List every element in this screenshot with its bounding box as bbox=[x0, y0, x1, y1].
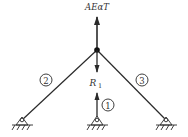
truss-diagram: AEαT R 1 1 bbox=[0, 0, 188, 137]
left-pin-support-icon bbox=[12, 117, 33, 130]
top-force-arrow bbox=[94, 16, 100, 50]
right-pin-support-icon bbox=[156, 117, 177, 130]
member-3-badge: 3 bbox=[136, 74, 148, 86]
reaction-arrow-up bbox=[95, 92, 100, 118]
member-1-badge: 1 bbox=[102, 99, 114, 111]
top-force-label: AEαT bbox=[84, 2, 110, 12]
reaction-label-main: R bbox=[89, 78, 97, 88]
member-2-badge: 2 bbox=[40, 74, 52, 86]
center-pin-support-icon bbox=[87, 116, 108, 130]
member-2-line bbox=[22, 50, 97, 120]
reaction-arrow-down bbox=[95, 50, 100, 73]
svg-text:1: 1 bbox=[105, 101, 110, 111]
svg-text:2: 2 bbox=[43, 76, 48, 86]
reaction-label-subscript: 1 bbox=[98, 82, 102, 90]
reaction-label: R 1 bbox=[89, 78, 102, 90]
svg-text:3: 3 bbox=[139, 76, 144, 86]
